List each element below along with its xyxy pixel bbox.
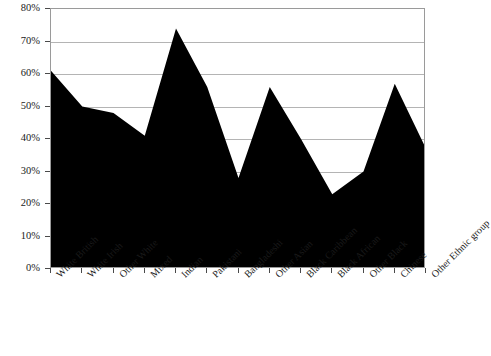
x-tick-label: Black Caribbean — [304, 272, 312, 280]
x-tick-label: Other Black — [367, 272, 375, 280]
x-tick-label: Other White — [117, 272, 125, 280]
x-tick-label: Chinese — [398, 272, 406, 280]
y-tick-label: 40% — [21, 133, 40, 144]
plot-area — [50, 8, 425, 268]
x-tick-label: Mixed — [148, 272, 156, 280]
x-tick-label: White British — [54, 272, 62, 280]
y-tick-label: 50% — [21, 100, 40, 111]
y-axis: 80%70%60%50%40%30%20%10%0% — [0, 0, 50, 276]
x-tick-label: Other Ethnic group — [429, 272, 437, 280]
x-tick-label: White Irish — [85, 272, 93, 280]
x-tick-label: Pakistani — [210, 272, 218, 280]
area-series-shape — [51, 29, 425, 269]
y-tick-label: 60% — [21, 68, 40, 79]
y-tick-label: 80% — [21, 3, 40, 14]
y-tick-label: 10% — [21, 230, 40, 241]
x-tick-label: Bangladeshi — [242, 272, 250, 280]
x-tick-label: Black African — [335, 272, 343, 280]
x-tick-label: Other Asian — [273, 272, 281, 280]
area-series — [51, 9, 425, 268]
y-tick-label: 30% — [21, 165, 40, 176]
x-tick-label: Indian — [179, 272, 187, 280]
y-tick-label: 20% — [21, 198, 40, 209]
y-tick-label: 70% — [21, 35, 40, 46]
x-axis-labels: White BritishWhite IrishOther WhiteMixed… — [0, 272, 434, 356]
